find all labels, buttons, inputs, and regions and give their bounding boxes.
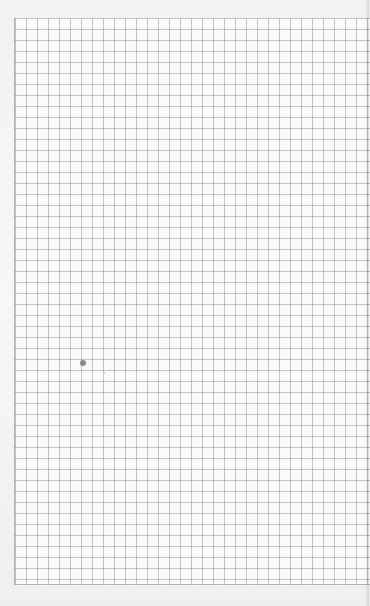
pencil-dot <box>80 360 86 366</box>
page-edge-shadow <box>365 0 369 606</box>
faint-speck <box>103 372 105 374</box>
grid-paper-sheet <box>14 18 370 585</box>
